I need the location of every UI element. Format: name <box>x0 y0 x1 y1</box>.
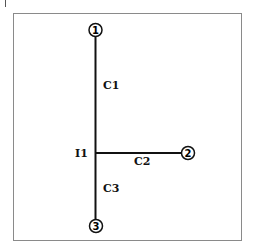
node-2: 2 <box>182 147 195 160</box>
svg-text:1: 1 <box>92 25 99 36</box>
svg-text:2: 2 <box>185 148 192 159</box>
node-3: 3 <box>90 220 103 233</box>
edge-label-c2: C2 <box>134 156 150 167</box>
network-diagram: 1 2 3 <box>0 0 256 252</box>
junction-label-i1: I1 <box>75 148 88 159</box>
edge-label-c1: C1 <box>103 80 119 91</box>
node-1: 1 <box>89 24 102 37</box>
svg-text:3: 3 <box>93 221 100 232</box>
edge-label-c3: C3 <box>103 183 119 194</box>
